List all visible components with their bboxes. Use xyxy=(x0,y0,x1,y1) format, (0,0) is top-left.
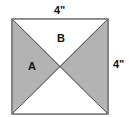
right-dimension-label: 4" xyxy=(113,58,124,70)
region-a-label: A xyxy=(28,60,36,72)
top-dimension-label: 4" xyxy=(54,4,65,16)
square-diagram: 4" 4" B A xyxy=(0,0,129,118)
region-b-label: B xyxy=(57,32,65,44)
